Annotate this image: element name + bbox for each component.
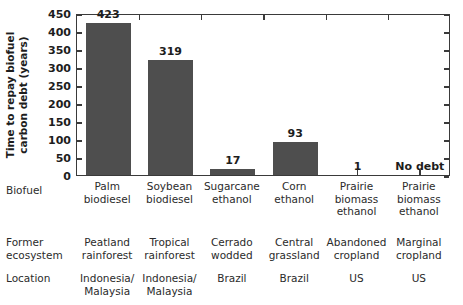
category-label-line: Prairie <box>335 180 379 193</box>
y-tick-mark-left <box>77 158 82 159</box>
cell-line: rainforest <box>82 249 133 262</box>
y-tick-label: 250 <box>48 80 71 93</box>
y-tick-mark-left <box>77 86 82 87</box>
x-axis-category-labels: PalmbiodieselSoybeanbiodieselSugarcaneet… <box>76 180 450 224</box>
bar-value-label: 1 <box>354 160 362 173</box>
x-tick-mark-top <box>201 15 202 20</box>
category-label-line: Palm <box>84 180 131 193</box>
x-category-label: Soybeanbiodiesel <box>146 180 193 205</box>
y-tick-mark-left <box>77 50 82 51</box>
table-cell-ecosystem: Tropicalrainforest <box>144 236 195 261</box>
table-cell-ecosystem: Centralgrassland <box>269 236 320 261</box>
cell-line: rainforest <box>144 249 195 262</box>
biofuel-carbon-debt-figure: Time to repay biofuel carbon debt (years… <box>0 0 463 305</box>
table-cell-location: Indonesia/Malaysia <box>142 272 196 297</box>
y-tick-label: 200 <box>48 98 71 111</box>
y-tick-label: 450 <box>48 8 71 21</box>
row-label-line: Former <box>6 236 63 249</box>
x-tick-mark-top <box>263 15 264 20</box>
y-tick-label: 150 <box>48 116 71 129</box>
x-category-label: Sugarcaneethanol <box>204 180 260 205</box>
table-cell-location: Indonesia/Malaysia <box>80 272 134 297</box>
category-label-line: ethanol <box>274 193 314 206</box>
x-category-label: Palmbiodiesel <box>84 180 131 205</box>
bar-value-label: 423 <box>97 8 120 21</box>
y-tick-mark-right <box>444 122 449 123</box>
category-label-line: ethanol <box>335 205 379 218</box>
y-tick-mark-right <box>444 50 449 51</box>
cell-line: wodded <box>211 249 253 262</box>
cell-line: US <box>349 272 363 285</box>
category-label-line: Prairie <box>397 180 441 193</box>
table-cell-location: US <box>349 272 363 285</box>
cell-line: Central <box>269 236 320 249</box>
cell-line: Tropical <box>144 236 195 249</box>
category-label-line: biomass <box>397 193 441 206</box>
y-tick-label: 0 <box>63 170 71 183</box>
y-axis-title-line-1: Time to repay biofuel <box>4 32 17 159</box>
cell-line: Malaysia <box>80 285 134 298</box>
y-tick-label: 50 <box>56 152 71 165</box>
y-tick-mark-right <box>444 176 449 177</box>
row-label-ecosystem: Formerecosystem <box>6 236 63 262</box>
row-label-biofuel: Biofuel <box>6 184 42 197</box>
y-tick-label: 100 <box>48 134 71 147</box>
category-label-line: biodiesel <box>146 193 193 206</box>
y-axis-title: Time to repay biofuel carbon debt (years… <box>0 14 34 176</box>
category-label-line: Sugarcane <box>204 180 260 193</box>
category-label-line: Soybean <box>146 180 193 193</box>
table-cell-ecosystem: Peatlandrainforest <box>82 236 133 261</box>
y-tick-label: 350 <box>48 44 71 57</box>
table-cell-location: US <box>412 272 426 285</box>
bar <box>148 60 193 175</box>
plot-inner: 42331917931No debt <box>77 15 449 175</box>
cell-line: cropland <box>396 249 442 262</box>
cell-line: Indonesia/ <box>142 272 196 285</box>
cell-line: US <box>412 272 426 285</box>
cell-line: Brazil <box>217 272 246 285</box>
table-cell-location: Brazil <box>280 272 309 285</box>
cell-line: Indonesia/ <box>80 272 134 285</box>
cell-line: cropland <box>327 249 387 262</box>
bar-value-label: 93 <box>288 127 303 140</box>
cell-line: Brazil <box>280 272 309 285</box>
table-cell-ecosystem: Cerradowodded <box>211 236 253 261</box>
bar <box>86 23 131 175</box>
y-axis-tick-labels: 050100150200250300350400450 <box>32 14 73 176</box>
y-tick-mark-left <box>77 14 82 15</box>
y-tick-label: 400 <box>48 26 71 39</box>
bar <box>273 142 318 175</box>
y-tick-mark-left <box>77 32 82 33</box>
cell-line: Malaysia <box>142 285 196 298</box>
row-label-location: Location <box>6 272 50 285</box>
y-tick-mark-left <box>77 104 82 105</box>
y-tick-mark-right <box>444 104 449 105</box>
y-tick-mark-left <box>77 140 82 141</box>
x-tick-mark-top <box>139 15 140 20</box>
row-label-line: Biofuel <box>6 184 42 197</box>
plot-area: 42331917931No debt <box>76 14 450 176</box>
x-category-label: Prairiebiomassethanol <box>335 180 379 218</box>
cell-line: Marginal <box>396 236 442 249</box>
cell-line: Cerrado <box>211 236 253 249</box>
y-tick-label: 300 <box>48 62 71 75</box>
row-label-line: Location <box>6 272 50 285</box>
x-tick-mark-top <box>326 15 327 20</box>
bar <box>210 169 255 175</box>
bar-value-label: 319 <box>159 45 182 58</box>
table-cell-ecosystem: Marginalcropland <box>396 236 442 261</box>
y-tick-mark-right <box>444 14 449 15</box>
category-label-line: Corn <box>274 180 314 193</box>
y-tick-mark-right <box>444 32 449 33</box>
y-tick-mark-left <box>77 122 82 123</box>
x-tick-mark-top <box>388 15 389 20</box>
category-label-line: biodiesel <box>84 193 131 206</box>
y-tick-mark-right <box>444 140 449 141</box>
x-category-label: Cornethanol <box>274 180 314 205</box>
bar-value-label: No debt <box>395 160 444 173</box>
y-tick-mark-right <box>444 86 449 87</box>
row-label-line: ecosystem <box>6 249 63 262</box>
cell-line: Peatland <box>82 236 133 249</box>
table-cell-ecosystem: Abandonedcropland <box>327 236 387 261</box>
cell-line: grassland <box>269 249 320 262</box>
